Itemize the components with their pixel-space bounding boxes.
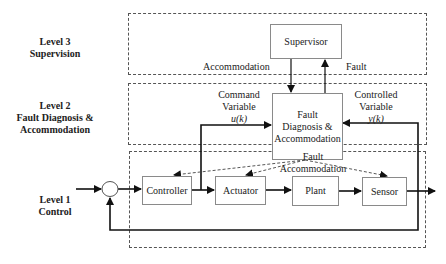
fault-diagnosis-block: Fault Diagnosis & Accommodation (272, 93, 343, 160)
controlled-line1: Controlled (348, 89, 404, 101)
command-line2: Variable (214, 101, 264, 113)
fault-label: Fault (346, 61, 367, 73)
command-line3: u(k) (214, 113, 264, 125)
actuator-label: Actuator (223, 185, 258, 197)
fda-label-line1: Fault (297, 109, 318, 121)
command-line1: Command (214, 89, 264, 101)
summing-junction (102, 182, 118, 197)
controller-block: Controller (142, 176, 192, 205)
fda-label-line2: Diagnosis & (282, 121, 332, 133)
fault-tolerant-control-diagram: Level 3 Supervision Level 2 Fault Diagno… (0, 0, 446, 264)
supervisor-label: Supervisor (284, 36, 327, 48)
controller-label: Controller (146, 185, 187, 197)
fault-accommodation-line2: Accommodation (276, 163, 350, 175)
plant-block: Plant (292, 176, 339, 206)
accommodation-label: Accommodation (203, 61, 270, 73)
fault-accommodation-line1: Fault (276, 151, 350, 163)
actuator-block: Actuator (215, 176, 266, 205)
connector-lines (0, 0, 446, 264)
controlled-line3: y(k) (348, 113, 404, 125)
command-variable-label: Command Variable u(k) (214, 89, 264, 125)
controlled-line2: Variable (348, 101, 404, 113)
supervisor-block: Supervisor (270, 24, 342, 59)
fault-accommodation-label: Fault Accommodation (276, 151, 350, 175)
fda-label-line3: Accommodation (274, 133, 341, 145)
controlled-variable-label: Controlled Variable y(k) (348, 89, 404, 125)
sensor-label: Sensor (371, 186, 398, 198)
sensor-block: Sensor (362, 177, 407, 206)
plant-label: Plant (305, 185, 326, 197)
